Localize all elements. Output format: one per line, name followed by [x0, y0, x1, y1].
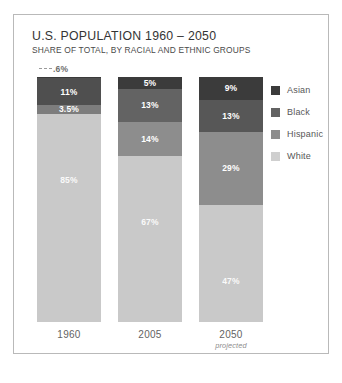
- bar-segment: 85%: [37, 114, 101, 322]
- legend-swatch: [271, 152, 280, 161]
- bar-stack: 9%13%29%47%: [199, 77, 263, 322]
- bar-segment: 3.5%: [37, 105, 101, 114]
- bar-stack: .6%11%3.5%85%: [37, 77, 101, 322]
- bar-segment: 14%: [118, 122, 182, 157]
- segment-value-label: 13%: [222, 112, 240, 121]
- legend-label: Black: [287, 107, 310, 117]
- legend-label: White: [287, 151, 311, 161]
- x-axis-tick-label: 2005: [113, 329, 187, 340]
- segment-value-label: 9%: [225, 84, 238, 93]
- x-tick-category: 2050: [219, 329, 242, 340]
- legend-swatch: [271, 86, 280, 95]
- segment-value-label: 3.5%: [59, 105, 79, 114]
- segment-value-label: 85%: [60, 176, 78, 185]
- chart-title: U.S. POPULATION 1960 – 2050: [32, 29, 312, 43]
- segment-value-label: 67%: [141, 218, 159, 227]
- bar-segment: 13%: [199, 100, 263, 133]
- bar-segment: 5%: [118, 77, 182, 89]
- segment-value-label: 29%: [222, 164, 240, 173]
- chart-subtitle: SHARE OF TOTAL, BY RACIAL AND ETHNIC GRO…: [32, 45, 312, 55]
- legend-label: Asian: [287, 85, 311, 95]
- segment-value-label: 47%: [222, 277, 240, 286]
- bar-column: .6%11%3.5%85%: [37, 77, 101, 322]
- bar-segment: 11%: [37, 78, 101, 105]
- segment-value-label: 14%: [141, 135, 159, 144]
- bar-stack: 5%13%14%67%: [118, 77, 182, 322]
- x-axis-tick-label: 2050projected: [194, 329, 268, 350]
- x-axis-tick-label: 1960: [32, 329, 106, 340]
- callout-leader-line: [39, 68, 52, 69]
- bar-segment: 29%: [199, 132, 263, 205]
- bar-column: 9%13%29%47%: [199, 77, 263, 322]
- legend-swatch: [271, 108, 280, 117]
- bar-segment: 67%: [118, 156, 182, 322]
- x-tick-category: 2005: [138, 329, 161, 340]
- segment-value-label: 5%: [144, 79, 157, 88]
- bar-segment: 9%: [199, 77, 263, 100]
- chart-legend: AsianBlackHispanicWhite: [271, 80, 327, 168]
- legend-item: Asian: [271, 80, 327, 100]
- x-tick-note: projected: [194, 341, 268, 350]
- segment-value-label: 13%: [141, 101, 159, 110]
- legend-label: Hispanic: [287, 129, 323, 139]
- legend-item: White: [271, 146, 327, 166]
- legend-item: Black: [271, 102, 327, 122]
- callout-value: .6%: [53, 64, 68, 74]
- bar-segment: 47%: [199, 205, 263, 323]
- chart-figure: U.S. POPULATION 1960 – 2050 SHARE OF TOT…: [13, 14, 329, 354]
- chart-heading-block: U.S. POPULATION 1960 – 2050 SHARE OF TOT…: [32, 29, 312, 55]
- segment-value-label: 11%: [60, 88, 77, 97]
- legend-swatch: [271, 130, 280, 139]
- x-tick-category: 1960: [57, 329, 80, 340]
- bar-segment: 13%: [118, 89, 182, 121]
- bar-column: 5%13%14%67%: [118, 77, 182, 322]
- plot-area: .6%11%3.5%85%19605%13%14%67%20059%13%29%…: [32, 77, 260, 322]
- legend-item: Hispanic: [271, 124, 327, 144]
- segment-callout-label: .6%: [39, 64, 68, 74]
